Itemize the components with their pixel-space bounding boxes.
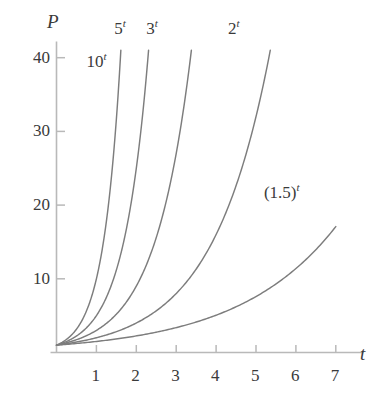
x-tick-label: 5 [251,367,260,384]
x-tick-label: 3 [171,367,180,384]
curve-10t [57,50,121,345]
x-tick-label: 1 [91,367,100,384]
x-tick-label: 7 [331,367,340,384]
x-tick-label: 4 [211,367,220,384]
chart-canvas [0,0,391,406]
y-tick-label: 30 [22,122,50,139]
curve-label-5t: 5t [114,20,126,37]
curve-label-exponent: t [123,18,126,30]
curve-3t [57,50,192,345]
axes-group [51,42,364,353]
curve-2t [57,50,271,345]
curve-label-2t: 2t [228,20,240,37]
curve-label-base: (1.5) [264,183,297,202]
x-axis-label: t [360,344,365,363]
curve-label-exponent: t [237,18,240,30]
y-axis-label: P [47,12,59,31]
curve-1.5t [57,227,336,346]
exponential-growth-chart: P t 123456710203040 10t5t3t2t(1.5)t [0,0,391,406]
curve-label-3t: 3t [146,20,158,37]
y-tick-label: 40 [22,49,50,66]
y-tick-label: 20 [22,196,50,213]
curve-label-base: 5 [114,19,123,38]
curve-label-exponent: t [297,181,300,193]
curve-label-exponent: t [155,18,158,30]
curve-label-1.5t: (1.5)t [264,184,300,201]
curve-label-base: 10 [86,52,103,71]
curve-label-10t: 10t [86,53,106,70]
curve-label-exponent: t [103,51,106,63]
x-tick-label: 6 [291,367,300,384]
x-tick-label: 2 [131,367,140,384]
curve-label-base: 3 [146,19,155,38]
curve-5t [57,50,149,345]
y-tick-label: 10 [22,270,50,287]
curve-label-base: 2 [228,19,237,38]
